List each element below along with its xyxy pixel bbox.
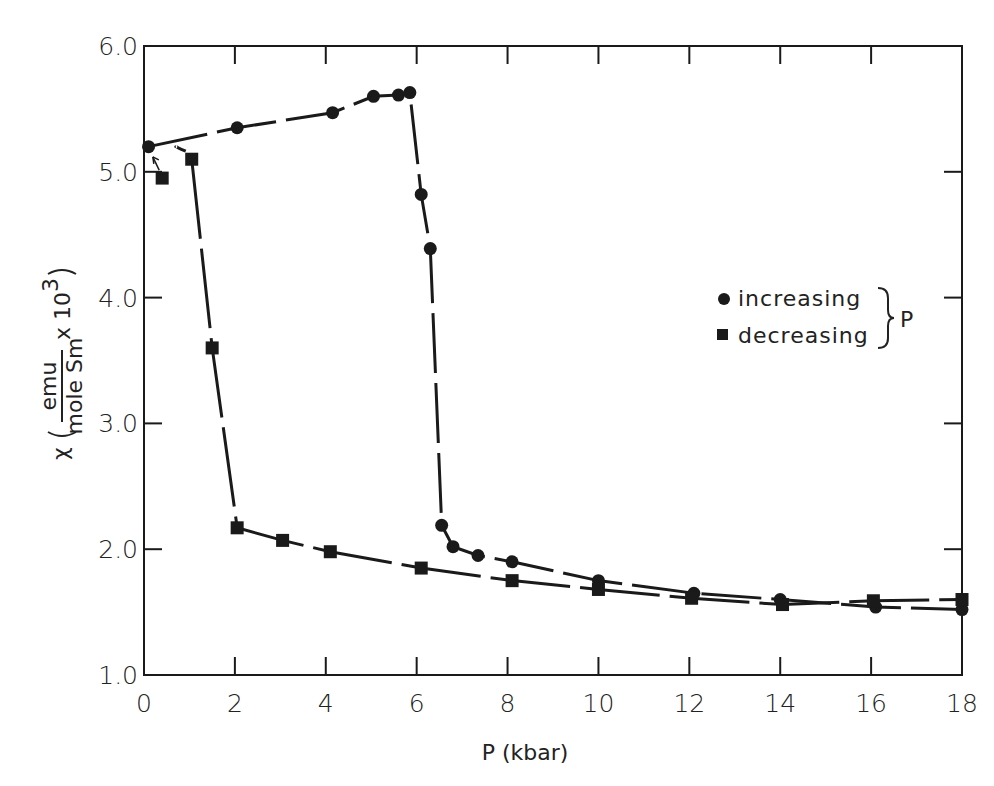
y-axis-denominator: mole Sm [62,338,87,435]
legend-group-label: P [900,307,914,332]
x-tick-label: 10 [583,689,615,718]
marker-square [415,562,428,575]
y-tick-label: 3.0 [98,409,138,438]
curve-decreasing [192,159,962,604]
marker-circle [415,188,428,201]
x-tick-label: 4 [318,689,334,718]
marker-circle [367,90,380,103]
y-tick-label: 2.0 [98,535,138,564]
chart-svg: 024681012141618 1.02.03.04.05.06.0 P (kb… [0,0,994,786]
marker-circle [472,549,485,562]
marker-circle [506,555,519,568]
curve-increasing [149,93,963,610]
y-axis-exponent: 3 [38,278,63,292]
marker-circle [142,140,155,153]
marker-circle [424,242,437,255]
marker-circle [231,121,244,134]
x-tick-label: 0 [136,689,152,718]
legend-label-increasing: increasing [738,286,861,311]
x-tick-label: 12 [673,689,705,718]
marker-circle [435,519,448,532]
x-axis-title: P (kbar) [482,740,569,765]
decreasing-curl [176,147,186,152]
y-axis-numerator: emu [36,362,61,411]
marker-circle [447,540,460,553]
y-axis-title: χ emu mole Sm x 10 3 [36,270,87,460]
marker-circle [392,89,405,102]
marker-circle [403,86,416,99]
right-paren [48,270,76,274]
y-tick-label: 6.0 [98,32,138,61]
marker-square [685,592,698,605]
y-tick-label: 5.0 [98,158,138,187]
marker-square [776,598,789,611]
marker-square [276,534,289,547]
x-tick-label: 6 [409,689,425,718]
legend-circle-icon [718,293,730,305]
legend: increasing decreasing P [717,286,914,348]
y-axis-symbol: χ [48,447,73,460]
marker-square [867,594,880,607]
marker-square [324,545,337,558]
y-tick-label: 4.0 [98,284,138,313]
marker-square [206,341,219,354]
x-tick-label: 8 [500,689,516,718]
marker-square [231,521,244,534]
plot-border [144,46,962,675]
x-tick-label: 18 [946,689,978,718]
legend-label-decreasing: decreasing [738,323,869,348]
y-axis-multiplier: x 10 [50,292,75,340]
marker-circle [326,106,339,119]
x-tick-labels: 024681012141618 [136,689,978,718]
y-tick-label: 1.0 [98,661,138,690]
legend-square-icon [717,329,728,340]
x-tick-label: 14 [764,689,796,718]
plot-frame [144,46,962,675]
marker-square [592,583,605,596]
axis-ticks [144,46,962,675]
legend-brace [878,288,894,348]
y-tick-labels: 1.02.03.04.05.06.0 [98,32,138,690]
marker-square [185,153,198,166]
data-curves [149,93,963,610]
marker-square [506,574,519,587]
x-tick-label: 16 [855,689,887,718]
marker-square [956,593,969,606]
x-tick-label: 2 [227,689,243,718]
marker-square [156,172,169,185]
